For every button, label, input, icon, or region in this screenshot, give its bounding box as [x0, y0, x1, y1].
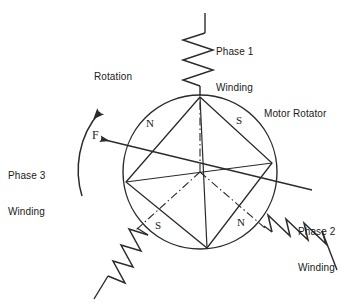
force-label: F [92, 128, 99, 143]
motor-rotator-label: Motor Rotator [264, 108, 326, 120]
force-vector-arrow [101, 139, 312, 190]
phase-3-label-line2: Winding [8, 206, 45, 218]
phase-1-label-line2: Winding [216, 82, 253, 94]
phase-3-label-line1: Phase 3 [8, 170, 45, 182]
phase-1-winding [183, 13, 213, 96]
phase-2-winding-label: Phase 2 Winding [298, 202, 335, 298]
phase-2-label-line1: Phase 2 [298, 226, 335, 238]
phase-3-zigzag [108, 229, 148, 283]
phase-1-winding-label: Phase 1 Winding [216, 22, 253, 118]
phase2-magnetic-axis [200, 172, 265, 228]
phase-1-zigzag [183, 33, 213, 86]
diagram-canvas [0, 0, 349, 303]
phase-3-winding-label: Phase 3 Winding [8, 146, 45, 242]
rotation-label: Rotation [94, 71, 132, 83]
phase3-magnetic-axis [136, 172, 200, 230]
motor-rotator-diagram: Phase 1 Winding Phase 2 Winding Phase 3 … [0, 0, 349, 303]
phase-2-label-line2: Winding [298, 262, 335, 274]
pole-north-lower-right: N [237, 216, 245, 228]
phase-1-label-line1: Phase 1 [216, 46, 253, 58]
phase-3-winding [94, 228, 148, 299]
pole-north-upper-left: N [146, 117, 154, 129]
pole-south-upper-right: S [236, 114, 242, 126]
rotation-arc-arrow [78, 112, 100, 196]
pole-south-lower-left: S [155, 219, 161, 231]
